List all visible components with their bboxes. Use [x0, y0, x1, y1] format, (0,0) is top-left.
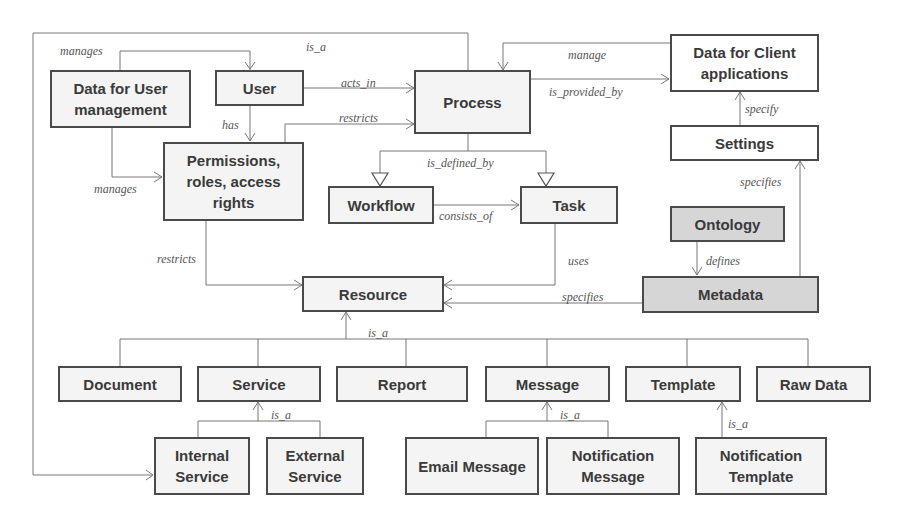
- label-specifies-resource: specifies: [562, 290, 603, 304]
- label-manages-user: manages: [60, 44, 103, 58]
- label-acts-in: acts_in: [341, 76, 376, 90]
- inheritance-triangle-icon: [372, 173, 388, 186]
- edge-manages-permissions: [112, 127, 162, 177]
- node-raw-data[interactable]: Raw Data: [756, 366, 871, 402]
- node-external-service[interactable]: External Service: [266, 437, 364, 495]
- diagram-canvas: Data for User management User Process Da…: [0, 0, 901, 523]
- label-is-a-service: is_a: [271, 408, 291, 422]
- node-settings[interactable]: Settings: [670, 125, 819, 161]
- edge-uses: [444, 223, 555, 285]
- label-is-provided-by: is_provided_by: [549, 85, 623, 99]
- node-resource[interactable]: Resource: [302, 276, 444, 312]
- label-is-a-outer: is_a: [306, 40, 326, 54]
- node-template[interactable]: Template: [625, 366, 741, 402]
- label-defines: defines: [706, 254, 740, 268]
- edge-is-a-message-bus: [486, 421, 608, 437]
- label-is-a-message: is_a: [560, 408, 580, 422]
- node-data-for-user-management[interactable]: Data for User management: [50, 70, 191, 128]
- inheritance-triangle-icon: [538, 173, 554, 186]
- node-task[interactable]: Task: [520, 186, 618, 224]
- edge-is-a-service-bus: [198, 421, 320, 437]
- label-is-a-resource: is_a: [368, 326, 388, 340]
- edge-manages-user: [120, 51, 250, 70]
- node-workflow[interactable]: Workflow: [328, 186, 434, 224]
- edge-is-a-resource-bus: [120, 339, 808, 366]
- node-permissions-roles-access-rights[interactable]: Permissions, roles, access rights: [163, 142, 304, 221]
- node-email-message[interactable]: Email Message: [405, 437, 539, 495]
- node-notification-message[interactable]: Notification Message: [546, 437, 680, 495]
- label-manages-permissions: manages: [94, 182, 137, 196]
- label-specifies-settings: specifies: [740, 175, 781, 189]
- node-metadata[interactable]: Metadata: [642, 276, 819, 313]
- node-ontology[interactable]: Ontology: [670, 206, 785, 242]
- label-is-defined-by: is_defined_by: [427, 156, 494, 170]
- node-process[interactable]: Process: [414, 70, 531, 134]
- node-report[interactable]: Report: [336, 366, 468, 402]
- edge-restricts-process: [285, 124, 414, 142]
- edge-restricts-resource: [206, 220, 302, 285]
- label-has: has: [222, 118, 239, 132]
- node-user[interactable]: User: [215, 70, 304, 106]
- label-restricts-process: restricts: [339, 111, 378, 125]
- node-service[interactable]: Service: [197, 366, 321, 402]
- label-uses: uses: [568, 254, 589, 268]
- label-specify: specify: [745, 102, 778, 116]
- node-document[interactable]: Document: [58, 366, 182, 402]
- node-message[interactable]: Message: [485, 366, 610, 402]
- node-data-for-client-applications[interactable]: Data for Client applications: [670, 34, 819, 92]
- label-restricts-resource: restricts: [157, 252, 196, 266]
- node-internal-service[interactable]: Internal Service: [154, 437, 250, 495]
- label-is-a-template: is_a: [728, 417, 748, 431]
- label-consists-of: consists_of: [439, 209, 492, 223]
- node-notification-template[interactable]: Notification Template: [695, 437, 827, 495]
- label-manage: manage: [568, 48, 606, 62]
